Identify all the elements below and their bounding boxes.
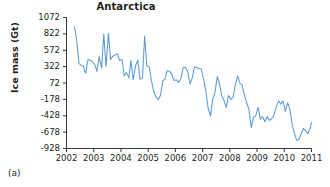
x-axis-tick-labels: 2002200320042005200620072008200920102011 (0, 0, 330, 187)
panel-label: (a) (8, 168, 21, 178)
figure-panel-a: Antarctica Ice mass (Gt) 107282257232272… (0, 0, 330, 187)
x-tick-label: 2011 (296, 154, 328, 163)
